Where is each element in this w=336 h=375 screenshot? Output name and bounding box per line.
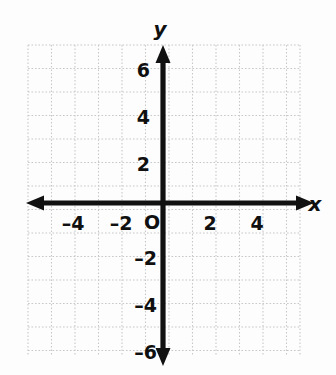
x-tick-label: 2	[203, 212, 216, 234]
x-tick-label: –2	[110, 212, 133, 234]
origin-label: O	[144, 211, 160, 233]
y-tick-label: 4	[137, 106, 150, 128]
x-axis-label: x	[308, 192, 323, 216]
y-tick-label: 6	[137, 59, 150, 81]
x-tick-label: –4	[62, 212, 85, 234]
x-tick-label: 4	[250, 212, 263, 234]
y-tick-label: –6	[134, 341, 157, 363]
y-tick-label: 2	[137, 153, 150, 175]
coordinate-grid-svg: x y O –4 –2 2 4 6 4 2 –2 –4 –6	[0, 0, 336, 375]
coordinate-plane-figure: x y O –4 –2 2 4 6 4 2 –2 –4 –6	[0, 0, 336, 375]
figure-background	[0, 0, 336, 375]
y-axis-label: y	[153, 17, 167, 41]
y-tick-label: –2	[134, 247, 157, 269]
y-tick-label: –4	[134, 294, 157, 316]
